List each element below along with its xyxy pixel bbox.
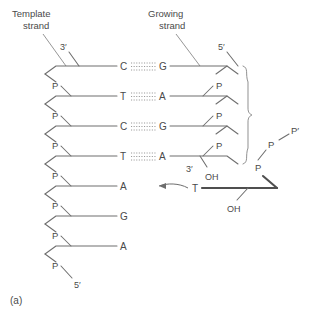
growing-phosphate-bond-3 — [203, 146, 213, 156]
incoming-hydroxyl-label: OH — [227, 204, 241, 214]
template-base-4: T — [120, 151, 126, 162]
growing-3prime-hydroxyl-label: OH — [205, 172, 219, 182]
hydrogen-bonds-pair-3 — [131, 123, 157, 130]
growing-phosphate-2: P — [216, 110, 222, 121]
growing-base-2: A — [159, 91, 166, 102]
template-base-5: A — [120, 181, 127, 192]
growing-base-4: A — [159, 151, 166, 162]
growing-nucleotide-2 — [170, 96, 238, 104]
template-base-6: G — [120, 211, 128, 222]
template-3prime-label: 3′ — [60, 42, 67, 52]
growing-phosphate-bond-1 — [203, 86, 213, 96]
template-phosphate-1: P — [52, 80, 58, 91]
incoming-phosphate-gamma: P′ — [291, 125, 299, 136]
template-base-3: C — [120, 121, 127, 132]
template-phosphate-6: P — [52, 230, 58, 241]
incoming-nucleotide-arrow — [159, 183, 188, 189]
template-phosphate-3: P — [52, 140, 58, 151]
template-phosphate-bond-4 — [61, 176, 71, 186]
template-phosphate-bond-3 — [61, 146, 71, 156]
growing-3prime-label: 3′ — [186, 164, 193, 174]
template-5prime-label: 5′ — [74, 280, 81, 290]
incoming-phosphate-bond-beta-gamma — [279, 134, 289, 140]
template-phosphate-bond-2 — [61, 116, 71, 126]
template-phosphate-4: P — [52, 170, 58, 181]
growing-phosphate-bond-2 — [203, 116, 213, 126]
template-phosphate-bond-5 — [61, 206, 71, 216]
template-phosphate-5: P — [52, 200, 58, 211]
incoming-base-T: T — [192, 183, 198, 194]
growing-5prime-bond — [227, 52, 238, 66]
incoming-phosphate-alpha: P — [255, 162, 261, 173]
incoming-phosphate-bond-alpha-beta — [258, 150, 266, 160]
growing-phosphate-3: P — [216, 140, 222, 151]
template-base-2: T — [120, 91, 126, 102]
template-base-1: C — [120, 61, 127, 72]
dna-replication-diagram: Template strand Growing strand 3′ P P P … — [0, 0, 321, 313]
growing-strand-label-line2: strand — [159, 20, 185, 31]
growing-strand-label-line1: Growing — [148, 8, 183, 19]
template-5prime-bond — [61, 266, 72, 278]
template-phosphate-7: P — [52, 260, 58, 271]
incoming-phosphate-beta: P — [268, 139, 274, 150]
template-3prime-bond — [69, 52, 79, 66]
panel-label: (a) — [10, 295, 22, 306]
growing-5prime-label: 5′ — [218, 42, 225, 52]
template-strand-label-line1: Template — [12, 8, 51, 19]
growing-nucleotide-4 — [170, 156, 238, 167]
hydrogen-bonds-pair-1 — [131, 63, 157, 70]
template-strand-label-line2: strand — [23, 20, 49, 31]
growing-nucleotide-3 — [170, 126, 238, 134]
growing-strand-leader-line — [176, 34, 200, 66]
growing-nucleotide-1 — [170, 66, 238, 74]
growing-base-3: G — [159, 121, 167, 132]
template-phosphate-bond-1 — [61, 86, 71, 96]
hydrogen-bonds-pair-2 — [131, 93, 157, 100]
template-base-7: A — [120, 241, 127, 252]
duplex-region-brace — [243, 66, 252, 164]
template-phosphate-2: P — [52, 110, 58, 121]
growing-base-1: G — [159, 61, 167, 72]
template-phosphate-bond-6 — [61, 236, 71, 246]
growing-phosphate-1: P — [216, 80, 222, 91]
hydrogen-bonds-pair-4 — [131, 153, 157, 160]
